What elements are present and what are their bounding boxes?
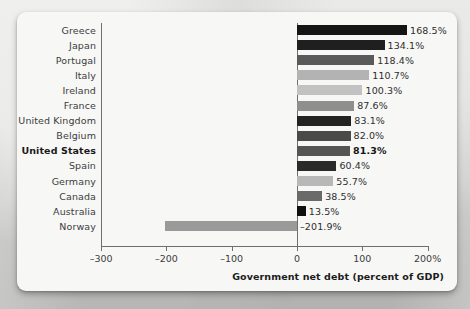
bar: [297, 206, 306, 216]
bar: [297, 146, 350, 156]
bar-value-label: 60.4%: [339, 160, 370, 171]
bar: [297, 161, 336, 171]
bar: [297, 101, 354, 111]
x-axis-tick: [362, 247, 363, 251]
x-axis-tick-label: 100: [332, 253, 392, 264]
bar-value-label: 118.4%: [377, 55, 414, 66]
category-label: France: [17, 100, 96, 111]
x-axis-title: Government net debt (percent of GDP): [17, 271, 444, 282]
bar: [165, 221, 297, 231]
bar: [297, 70, 369, 80]
bar-value-label: 13.5%: [309, 206, 340, 217]
y-axis-spine: [101, 23, 102, 246]
x-axis-tick-label: –100: [202, 253, 262, 264]
category-label: Portugal: [17, 55, 96, 66]
bar: [297, 40, 385, 50]
category-label: Italy: [17, 70, 96, 81]
x-axis-tick-label: –300: [71, 253, 131, 264]
category-label: Germany: [17, 176, 96, 187]
bar-value-label: 134.1%: [388, 40, 425, 51]
bar-value-label: 38.5%: [325, 191, 356, 202]
x-axis-tick-label: 200%: [398, 253, 458, 264]
bar: [297, 131, 351, 141]
x-axis-tick: [101, 247, 102, 251]
category-label: Norway: [17, 221, 96, 232]
bar-chart-plot: –300–200–1000100200%Greece168.5%Japan134…: [17, 12, 457, 291]
x-axis-tick: [166, 247, 167, 251]
bar: [297, 176, 333, 186]
category-label: Greece: [17, 25, 96, 36]
bar: [297, 191, 322, 201]
category-label: Canada: [17, 191, 96, 202]
x-axis-tick: [232, 247, 233, 251]
x-axis-tick-label: –200: [136, 253, 196, 264]
bar: [297, 25, 407, 35]
bar-value-label: 87.6%: [357, 100, 388, 111]
category-label: United States: [17, 145, 96, 156]
chart-card: –300–200–1000100200%Greece168.5%Japan134…: [17, 12, 457, 291]
bar: [297, 85, 362, 95]
bar-value-label: 55.7%: [336, 176, 367, 187]
category-label: Japan: [17, 40, 96, 51]
x-axis-tick: [428, 247, 429, 251]
category-label: United Kingdom: [17, 115, 96, 126]
x-axis-tick-label: 0: [267, 253, 327, 264]
bar-value-label: –201.9%: [300, 221, 342, 232]
bar: [297, 55, 374, 65]
bar-value-label: 82.0%: [354, 130, 385, 141]
bar: [297, 116, 351, 126]
bar-value-label: 81.3%: [353, 145, 386, 156]
category-label: Ireland: [17, 85, 96, 96]
bar-value-label: 83.1%: [354, 115, 385, 126]
category-label: Belgium: [17, 130, 96, 141]
bar-value-label: 168.5%: [410, 25, 447, 36]
x-axis-line: [101, 246, 429, 247]
bar-value-label: 110.7%: [372, 70, 409, 81]
category-label: Australia: [17, 206, 96, 217]
category-label: Spain: [17, 160, 96, 171]
bar-value-label: 100.3%: [365, 85, 402, 96]
x-axis-tick: [297, 247, 298, 251]
